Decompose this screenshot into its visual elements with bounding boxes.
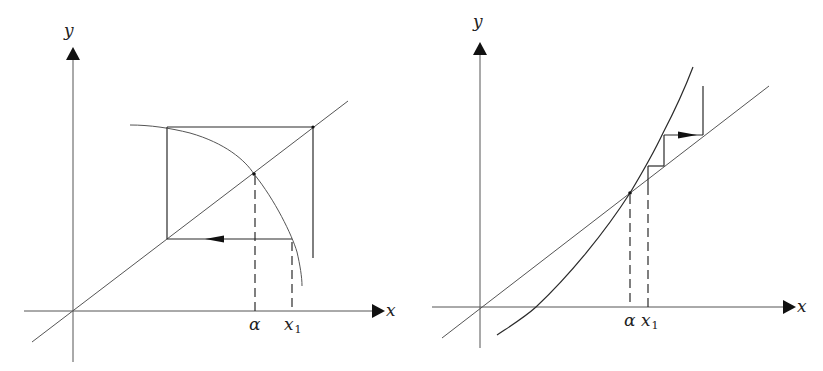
- left-diagram: y x α x1: [24, 20, 396, 362]
- figure-canvas: y x α x1 y x: [0, 0, 823, 371]
- right-x-axis-label: x: [797, 296, 807, 316]
- left-alpha-label: α: [249, 314, 261, 334]
- right-alpha-label: α: [624, 310, 636, 330]
- left-curve-g: [130, 125, 302, 286]
- left-cobweb-corner: [311, 125, 314, 128]
- right-line-y-equals-x: [442, 86, 769, 338]
- left-y-axis-arrow-icon: [66, 47, 80, 60]
- right-x-axis-arrow-icon: [783, 300, 796, 314]
- right-cobweb-arrow-icon: [678, 132, 697, 139]
- left-cobweb-arrow-icon: [205, 236, 224, 243]
- left-x-axis-arrow-icon: [372, 304, 385, 318]
- right-fixed-point: [628, 191, 632, 195]
- left-fixed-point: [252, 172, 256, 176]
- left-x1-label: x1: [284, 314, 302, 336]
- right-diagram: y x α x1: [432, 11, 807, 348]
- left-line-y-equals-x: [32, 101, 348, 342]
- right-x1-label: x1: [641, 310, 659, 332]
- left-y-axis-label: y: [63, 20, 74, 40]
- right-y-axis-arrow-icon: [473, 42, 487, 55]
- right-y-axis-label: y: [472, 11, 483, 31]
- left-x-axis-label: x: [386, 300, 396, 320]
- right-curve-g: [497, 67, 693, 335]
